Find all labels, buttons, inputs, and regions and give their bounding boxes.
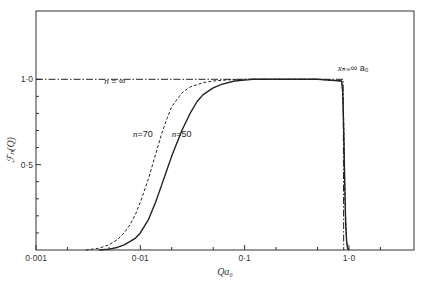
annotation-text: =70 xyxy=(137,129,152,139)
series-line-n xyxy=(36,79,344,250)
annotation-label: n=70 xyxy=(133,129,153,139)
x-tick-label: 0·1 xyxy=(239,253,252,263)
y-axis-title: ℱₙ(Q) xyxy=(5,136,17,163)
y-tick-label: 0·5 xyxy=(21,160,34,170)
x-tick-label: 0·01 xyxy=(132,253,149,263)
series-line-n-70 xyxy=(86,79,348,250)
y-major-ticks: 0·51·0 xyxy=(21,74,41,169)
annotation-text: ₙ₌∞ a₀ xyxy=(342,63,369,73)
chart-figure: 0·0010·010·11·0 0·51·0 n = ∞n=70n=50xₙ₌∞… xyxy=(0,0,421,285)
annotation-label: n = ∞ xyxy=(104,76,125,86)
x-axis-title: Qa₀ xyxy=(217,266,233,277)
x-tick-label: 0·001 xyxy=(25,253,47,263)
x-tick-label: 1·0 xyxy=(343,253,356,263)
annotation-label: xₙ₌∞ a₀ xyxy=(337,63,369,73)
y-tick-label: 1·0 xyxy=(21,74,34,84)
annotations: n = ∞n=70n=50xₙ₌∞ a₀ xyxy=(104,63,368,140)
x-major-ticks: 0·0010·010·11·0 xyxy=(25,245,355,263)
annotation-text: = ∞ xyxy=(109,76,126,86)
plot-frame xyxy=(36,11,414,250)
series-line-n-50 xyxy=(99,79,349,250)
series-group xyxy=(36,79,349,250)
annotation-text: =50 xyxy=(176,129,191,139)
annotation-label: n=50 xyxy=(172,129,192,139)
